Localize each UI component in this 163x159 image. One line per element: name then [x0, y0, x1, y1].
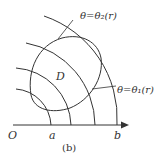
label-theta2: θ=θ₂(r) [80, 10, 117, 21]
label-region-d: D [55, 70, 65, 83]
label-b: b [114, 129, 121, 142]
label-theta1: θ=θ₁(r) [117, 84, 154, 95]
arc-r-3 [26, 43, 95, 125]
label-origin: O [8, 129, 17, 142]
polar-region-diagram: θ=θ₂(r) θ=θ₁(r) D O a b (b) [0, 0, 163, 159]
axis-arrow-icon [121, 122, 129, 129]
label-a: a [49, 129, 56, 142]
figure-caption: (b) [62, 142, 76, 153]
arc-r-a [16, 89, 51, 125]
arc-r-b [44, 16, 117, 125]
